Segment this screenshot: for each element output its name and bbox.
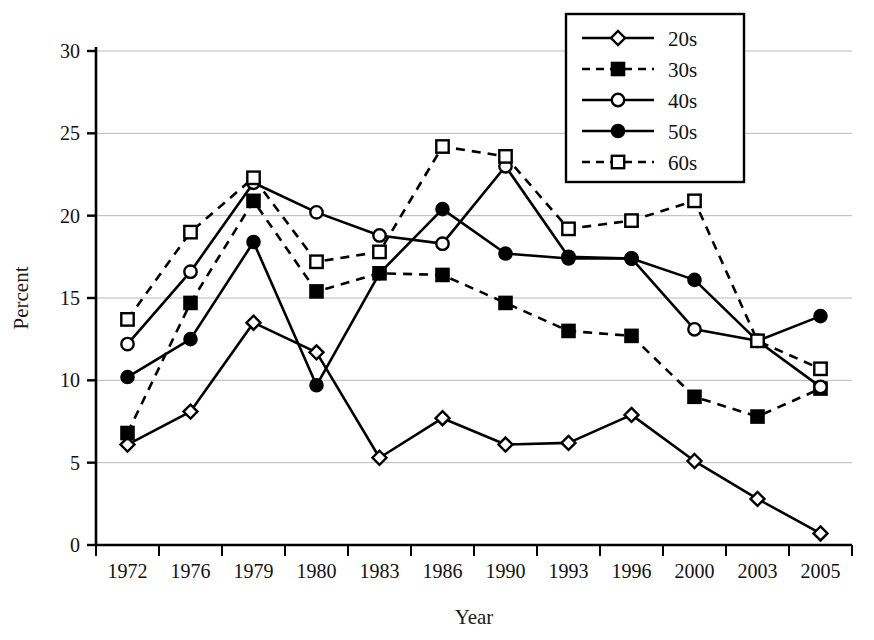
series-30s-point-2000-marker-filled-square bbox=[688, 391, 700, 403]
series-50s-point-1976-marker-filled-circle bbox=[184, 333, 196, 345]
x-tick-label-1996: 1996 bbox=[612, 560, 652, 582]
legend-label-50s: 50s bbox=[668, 120, 697, 144]
series-line-30s bbox=[128, 201, 821, 433]
series-60s-point-2000-marker-open-square bbox=[688, 195, 700, 207]
series-50s-point-1986-marker-filled-circle bbox=[436, 203, 448, 215]
series-40s-point-1972-marker-open-circle bbox=[121, 338, 133, 350]
x-tick-label-1972: 1972 bbox=[108, 560, 148, 582]
series-line-50s bbox=[128, 209, 821, 385]
series-20s-point-2003-marker-open-diamond bbox=[751, 492, 765, 506]
legend: 20s30s40s50s60s bbox=[566, 14, 744, 182]
x-axis-title: Year bbox=[455, 605, 494, 629]
series-50s-point-1972-marker-filled-circle bbox=[121, 371, 133, 383]
legend-label-30s: 30s bbox=[668, 58, 697, 82]
series-40s-point-1986-marker-open-circle bbox=[436, 237, 448, 249]
series-60s-point-2003-marker-open-square bbox=[751, 335, 763, 347]
line-chart: 0510152025301972197619791980198319861990… bbox=[0, 0, 874, 640]
series-50s-point-2000-marker-filled-circle bbox=[688, 274, 700, 286]
series-30s-point-1976-marker-filled-square bbox=[184, 297, 196, 309]
series-40s-point-1976-marker-open-circle bbox=[184, 265, 196, 277]
x-tick-label-2000: 2000 bbox=[675, 560, 715, 582]
x-tick-label-1983: 1983 bbox=[360, 560, 400, 582]
legend-swatch-30s-marker-filled-square bbox=[612, 63, 624, 75]
series-50s bbox=[121, 203, 826, 392]
x-tick-label-1976: 1976 bbox=[171, 560, 211, 582]
series-30s-point-2003-marker-filled-square bbox=[751, 410, 763, 422]
series-50s-point-1979-marker-filled-circle bbox=[247, 236, 259, 248]
series-20s bbox=[121, 316, 828, 541]
series-20s-point-2005-marker-open-diamond bbox=[814, 526, 828, 540]
y-tick-label-10: 10 bbox=[60, 369, 80, 391]
series-40s-point-2000-marker-open-circle bbox=[688, 323, 700, 335]
legend-label-40s: 40s bbox=[668, 89, 697, 113]
x-tick-label-1990: 1990 bbox=[486, 560, 526, 582]
x-tick-label-1993: 1993 bbox=[549, 560, 589, 582]
series-40s-point-1983-marker-open-circle bbox=[373, 229, 385, 241]
series-50s-point-1983-marker-filled-circle bbox=[373, 267, 385, 279]
legend-swatch-50s-marker-filled-circle bbox=[612, 125, 624, 137]
x-tick-label-2003: 2003 bbox=[738, 560, 778, 582]
legend-swatch-40s-marker-open-circle bbox=[612, 94, 624, 106]
series-50s-point-2005-marker-filled-circle bbox=[814, 310, 826, 322]
series-60s-point-1979-marker-open-square bbox=[247, 172, 259, 184]
series-30s-point-1979-marker-filled-square bbox=[247, 195, 259, 207]
x-tick-label-2005: 2005 bbox=[801, 560, 841, 582]
series-20s-point-1986-marker-open-diamond bbox=[436, 411, 450, 425]
y-tick-label-5: 5 bbox=[70, 452, 80, 474]
legend-label-20s: 20s bbox=[668, 27, 697, 51]
x-tick-label-1979: 1979 bbox=[234, 560, 274, 582]
series-30s-point-1993-marker-filled-square bbox=[562, 325, 574, 337]
series-20s-point-1990-marker-open-diamond bbox=[499, 438, 513, 452]
series-20s-point-1980-marker-open-diamond bbox=[310, 345, 324, 359]
series-60s-point-1980-marker-open-square bbox=[310, 256, 322, 268]
series-50s-point-1996-marker-filled-circle bbox=[625, 252, 637, 264]
y-tick-label-25: 25 bbox=[60, 122, 80, 144]
series-50s-point-1980-marker-filled-circle bbox=[310, 379, 322, 391]
series-60s-point-1996-marker-open-square bbox=[625, 214, 637, 226]
series-60s-point-1976-marker-open-square bbox=[184, 226, 196, 238]
y-tick-label-15: 15 bbox=[60, 287, 80, 309]
series-40s-point-2005-marker-open-circle bbox=[814, 381, 826, 393]
y-axis-title: Percent bbox=[9, 266, 33, 329]
x-tick-label-1986: 1986 bbox=[423, 560, 463, 582]
series-60s-point-1983-marker-open-square bbox=[373, 246, 385, 258]
series-50s-point-1993-marker-filled-circle bbox=[562, 252, 574, 264]
legend-swatch-60s-marker-open-square bbox=[612, 156, 624, 168]
series-20s-point-1993-marker-open-diamond bbox=[562, 436, 576, 450]
series-60s-point-2005-marker-open-square bbox=[814, 363, 826, 375]
y-tick-label-0: 0 bbox=[70, 534, 80, 556]
y-tick-label-30: 30 bbox=[60, 40, 80, 62]
series-60s-point-1993-marker-open-square bbox=[562, 223, 574, 235]
chart-canvas: 0510152025301972197619791980198319861990… bbox=[0, 0, 874, 640]
legend-label-60s: 60s bbox=[668, 151, 697, 175]
series-30s-point-1986-marker-filled-square bbox=[436, 269, 448, 281]
series-30s-point-1972-marker-filled-square bbox=[121, 427, 133, 439]
series-30s-point-1990-marker-filled-square bbox=[499, 297, 511, 309]
series-60s-point-1990-marker-open-square bbox=[499, 150, 511, 162]
y-tick-label-20: 20 bbox=[60, 205, 80, 227]
series-60s-point-1972-marker-open-square bbox=[121, 313, 133, 325]
series-50s-point-1990-marker-filled-circle bbox=[499, 247, 511, 259]
series-30s-point-1996-marker-filled-square bbox=[625, 330, 637, 342]
x-tick-label-1980: 1980 bbox=[297, 560, 337, 582]
series-30s-point-1980-marker-filled-square bbox=[310, 285, 322, 297]
series-40s-point-1980-marker-open-circle bbox=[310, 206, 322, 218]
series-line-20s bbox=[128, 323, 821, 534]
series-60s-point-1986-marker-open-square bbox=[436, 140, 448, 152]
